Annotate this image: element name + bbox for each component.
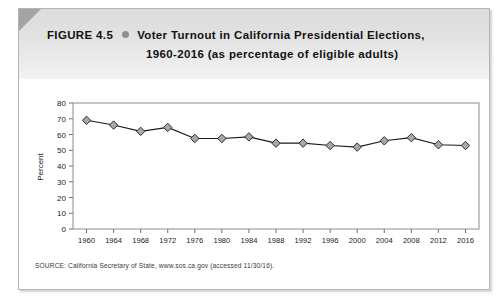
- y-tick-label: 30: [57, 178, 66, 187]
- data-point-marker: [136, 127, 144, 135]
- x-tick-label: 1984: [240, 236, 257, 245]
- data-point-marker: [461, 141, 469, 149]
- x-tick-label: 2008: [403, 236, 420, 245]
- y-tick-label: 20: [57, 194, 66, 203]
- bullet-dot-icon: [122, 31, 129, 38]
- corner-fold-icon: [19, 9, 41, 31]
- figure-header-band: FIGURE 4.5 Voter Turnout in California P…: [19, 9, 489, 79]
- y-tick-label: 50: [57, 146, 66, 155]
- x-tick-label: 1980: [213, 236, 230, 245]
- data-point-marker: [164, 123, 172, 131]
- x-tick-label: 2000: [349, 236, 366, 245]
- data-point-marker: [407, 133, 415, 141]
- figure-caption: FIGURE 4.5 Voter Turnout in California P…: [47, 27, 475, 62]
- data-point-marker: [245, 133, 253, 141]
- data-point-marker: [272, 139, 280, 147]
- x-tick-label: 2004: [376, 236, 393, 245]
- figure-caption-line-1: FIGURE 4.5 Voter Turnout in California P…: [47, 27, 475, 43]
- chart-region: Percent 01020304050607080 19601964196819…: [19, 79, 489, 249]
- source-note: SOURCE: California Secretary of State, w…: [35, 262, 274, 269]
- x-tick-label: 1968: [132, 236, 149, 245]
- figure-title-line-2: 1960-2016 (as percentage of eligible adu…: [146, 46, 475, 62]
- x-tick-label: 2012: [430, 236, 447, 245]
- y-axis-title: Percent: [36, 152, 45, 180]
- y-tick-label: 60: [57, 131, 66, 140]
- plot-frame: [73, 103, 479, 229]
- x-tick-label: 1976: [186, 236, 203, 245]
- data-point-marker: [380, 137, 388, 145]
- x-tick-label: 1996: [322, 236, 339, 245]
- data-point-marker: [82, 116, 90, 124]
- data-point-marker: [326, 141, 334, 149]
- y-tick-label: 10: [57, 209, 66, 218]
- data-point-marker: [218, 134, 226, 142]
- x-tick-label: 2016: [457, 236, 474, 245]
- figure-title-line-1: Voter Turnout in California Presidential…: [137, 27, 425, 43]
- y-axis-ticks: 01020304050607080: [57, 99, 73, 234]
- data-point-marker: [299, 139, 307, 147]
- figure-page: FIGURE 4.5 Voter Turnout in California P…: [18, 8, 490, 290]
- x-tick-label: 1964: [105, 236, 122, 245]
- y-tick-label: 80: [57, 99, 66, 108]
- y-axis-label: Percent: [36, 152, 45, 180]
- x-tick-label: 1992: [295, 236, 312, 245]
- y-tick-label: 0: [62, 225, 67, 234]
- y-tick-label: 40: [57, 162, 66, 171]
- data-point-marker: [353, 143, 361, 151]
- x-tick-label: 1972: [159, 236, 176, 245]
- data-point-marker: [434, 141, 442, 149]
- data-point-marker: [109, 121, 117, 129]
- data-markers: [82, 116, 469, 151]
- x-axis-ticks: 1960196419681972197619801984198819921996…: [78, 229, 474, 245]
- data-point-marker: [191, 134, 199, 142]
- x-tick-label: 1960: [78, 236, 95, 245]
- x-tick-label: 1988: [268, 236, 285, 245]
- figure-number: FIGURE 4.5: [47, 27, 113, 43]
- y-tick-label: 70: [57, 115, 66, 124]
- voter-turnout-line-chart: Percent 01020304050607080 19601964196819…: [19, 79, 490, 249]
